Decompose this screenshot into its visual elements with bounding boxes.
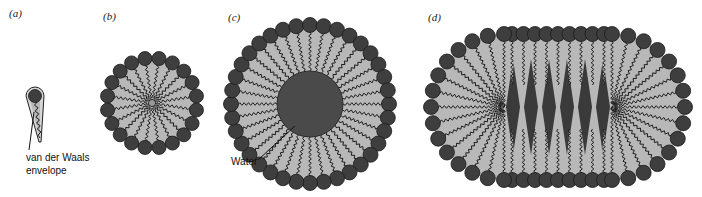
panel-b-micelle [101,52,204,155]
panel-d-elongated-micelle [424,27,693,188]
diagram-canvas [0,0,702,197]
panel-a-molecule [26,87,44,150]
vdw-label-line1: van der Waals [26,151,90,164]
panel-label-c: (c) [228,11,240,23]
panel-label-a: (a) [9,7,22,19]
panel-label-d: (d) [428,11,441,23]
vdw-envelope-label: van der Waals envelope [26,151,90,177]
vdw-label-line2: envelope [26,164,90,177]
panel-label-b: (b) [103,10,116,22]
water-label: Water [231,155,257,168]
